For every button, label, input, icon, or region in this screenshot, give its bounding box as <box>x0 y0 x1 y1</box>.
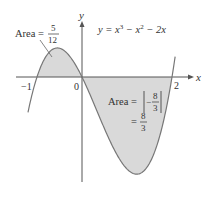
area-right-minus: − <box>146 97 151 107</box>
tick-label-0: 0 <box>74 81 79 92</box>
graph-figure: y x −1 0 2 y = x3 − x2 − 2x Area = 5 12 … <box>0 0 212 200</box>
area-right-result-numerator: 8 <box>141 111 146 121</box>
area-right-result-denominator: 3 <box>141 123 146 133</box>
area-right-denominator: 3 <box>153 103 158 113</box>
y-axis-arrow-icon <box>80 21 85 27</box>
tick-label-neg1: −1 <box>21 81 32 92</box>
equation-label: y = x3 − x2 − 2x <box>97 23 166 35</box>
x-axis-arrow-icon <box>188 75 194 80</box>
area-right-numerator: 8 <box>153 91 158 101</box>
area-right-equals: = <box>131 116 137 127</box>
y-axis-label: y <box>78 9 84 21</box>
shaded-area-left <box>37 48 82 77</box>
x-axis-label: x <box>195 71 201 83</box>
tick-label-2: 2 <box>174 80 179 91</box>
area-left-numerator: 5 <box>51 23 56 33</box>
area-left-prefix: Area = <box>15 28 44 39</box>
area-right-prefix: Area = <box>108 96 137 107</box>
area-left-denominator: 12 <box>48 35 57 45</box>
shaded-area-right <box>82 77 172 174</box>
